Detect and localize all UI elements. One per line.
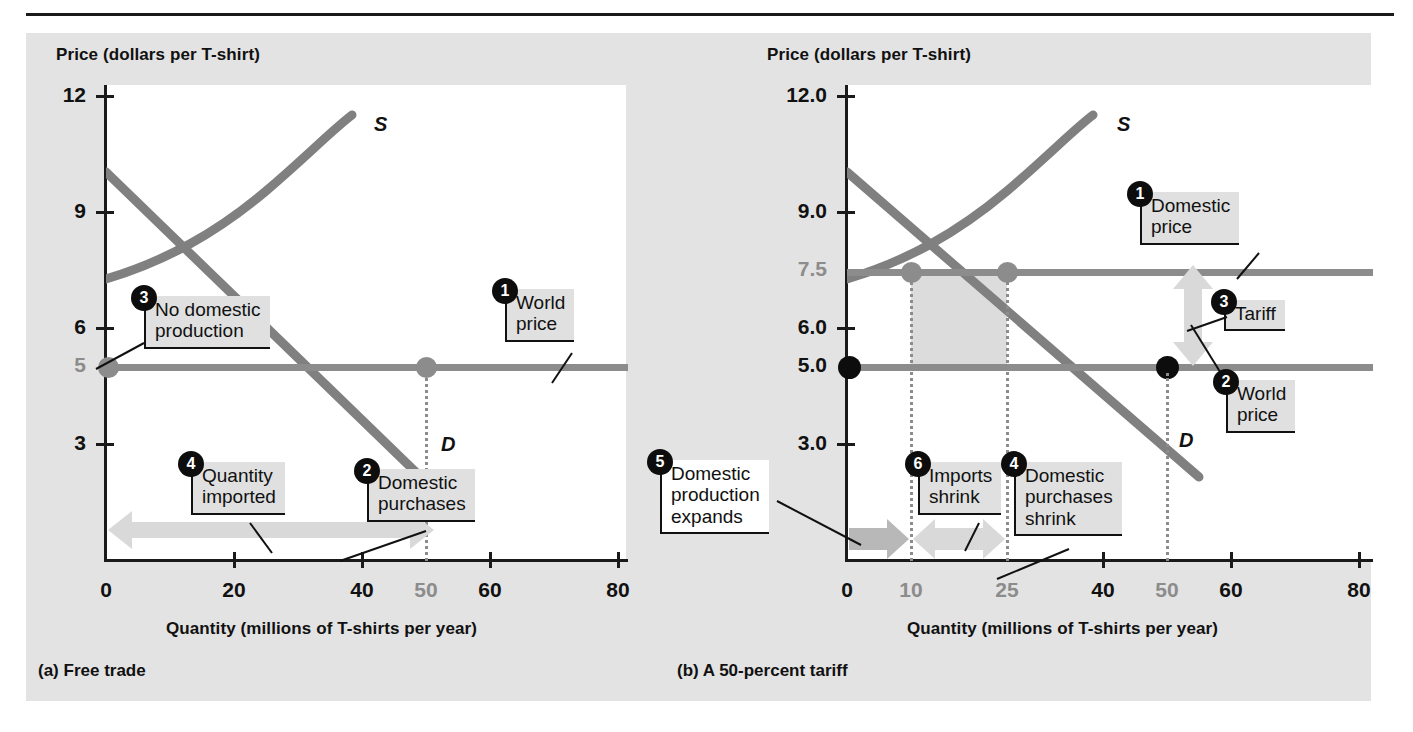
panel-a-ylabel-3: 3 — [40, 431, 86, 455]
callout-1-line-1: Domestic — [1151, 195, 1230, 216]
callout-badge-2: 2 — [354, 458, 380, 484]
callout-6-line-1: Imports — [929, 465, 992, 486]
callout-4-line-3: shrink — [1025, 508, 1113, 529]
callout-2-line-1: Domestic — [378, 472, 466, 493]
callout-4-line-2: purchases — [1025, 486, 1113, 507]
panel-b-ylabel-6: 6.0 — [755, 315, 827, 339]
callout-6-line-2: shrink — [929, 486, 992, 507]
panel-a-xlabel-80: 80 — [593, 578, 643, 602]
panel-a-x-axis-title: Quantity (millions of T-shirts per year) — [166, 619, 477, 639]
panel-b-supply-curve — [847, 115, 1093, 279]
callout-badge-4: 4 — [1001, 451, 1027, 477]
panel-b-domestic-price-line — [847, 269, 1373, 276]
panel-a-xlabel-0: 0 — [81, 578, 131, 602]
callout-5-line-2: production — [671, 484, 760, 505]
panel-b-xlabel-25: 25 — [982, 578, 1032, 602]
panel-b-ylabel-5-world-price: 5.0 — [755, 353, 827, 377]
panel-a-xlabel-20: 20 — [209, 578, 259, 602]
panel-b-ylabel-9: 9.0 — [755, 199, 827, 223]
panel-b-xlabel-50: 50 — [1142, 578, 1192, 602]
callout-badge-6: 6 — [905, 451, 931, 477]
panel-a-ylabel-5-world-price: 5 — [40, 353, 86, 377]
callout-4-line-1: Domestic — [1025, 465, 1113, 486]
panel-a-xlabel-50: 50 — [401, 578, 451, 602]
panel-b-xlabel-10: 10 — [886, 578, 936, 602]
top-rule — [26, 13, 1394, 16]
panel-b-xlabel-0: 0 — [822, 578, 872, 602]
callout-5-line-3: expands — [671, 506, 760, 527]
callout-badge-3: 3 — [1211, 289, 1237, 315]
panel-tariff: Price (dollars per T-shirt) 12.0 9.0 7.5… — [699, 33, 1371, 701]
callout-2-line-1: World — [1237, 383, 1286, 404]
callout-3-line-1: No domestic — [155, 299, 261, 320]
panel-a-demand-label: D — [441, 433, 455, 456]
callout-3-line-2: production — [155, 320, 261, 341]
panel-a-supply-label: S — [374, 113, 387, 136]
callout-1-line-2: price — [516, 313, 565, 334]
panel-a-xlabel-60: 60 — [465, 578, 515, 602]
callout-3-line-1: Tariff — [1235, 303, 1276, 324]
panel-b-caption: (b) A 50-percent tariff — [677, 661, 848, 681]
panel-b-supply-label: S — [1117, 113, 1130, 136]
panel-a-ylabel-12: 12 — [40, 83, 86, 107]
panel-b-demand-label: D — [1179, 429, 1193, 452]
callout-1-line-2: price — [1151, 216, 1230, 237]
panel-a-world-price-line — [106, 364, 628, 371]
panel-b-dotted-q50 — [1166, 373, 1169, 561]
panel-b-ylabel-12: 12.0 — [755, 83, 827, 107]
panel-b-imports-shrink-arrow — [913, 519, 1005, 559]
panel-b-ylabel-3: 3.0 — [755, 431, 827, 455]
panel-b-world-price-line — [847, 364, 1373, 371]
panel-b-domestic-production-arrow — [849, 519, 911, 559]
callout-4-line-2: imported — [202, 486, 276, 507]
panel-a-ylabel-6: 6 — [40, 315, 86, 339]
callout-badge-1: 1 — [1127, 181, 1153, 207]
callout-5-line-1: Domestic — [671, 463, 760, 484]
callout-badge-1: 1 — [492, 278, 518, 304]
panel-a-supply-curve — [106, 115, 352, 279]
figure-root: Price (dollars per T-shirt) 12 9 6 3 5 0… — [0, 0, 1413, 732]
callout-2-line-2: price — [1237, 404, 1286, 425]
panel-free-trade: Price (dollars per T-shirt) 12 9 6 3 5 0… — [26, 33, 698, 701]
panel-b-y-axis-title: Price (dollars per T-shirt) — [767, 45, 971, 65]
panel-b-xlabel-80: 80 — [1334, 578, 1384, 602]
panel-a-ylabel-9: 9 — [40, 199, 86, 223]
panel-a-xlabel-40: 40 — [337, 578, 387, 602]
callout-badge-4: 4 — [178, 451, 204, 477]
callout-badge-2: 2 — [1213, 369, 1239, 395]
panel-b-x-axis-title: Quantity (millions of T-shirts per year) — [907, 619, 1218, 639]
panel-b-xlabel-60: 60 — [1206, 578, 1256, 602]
callout-badge-3: 3 — [131, 285, 157, 311]
panel-b-dotted-q25 — [1006, 276, 1009, 561]
panel-b-ylabel-75-domestic-price: 7.5 — [755, 257, 827, 281]
panel-b-xlabel-40: 40 — [1078, 578, 1128, 602]
panel-a-y-axis-title: Price (dollars per T-shirt) — [56, 45, 260, 65]
callout-2-line-2: purchases — [378, 493, 466, 514]
panel-b-dot-origin-world-price — [838, 356, 861, 379]
callout-4-line-1: Quantity — [202, 465, 276, 486]
callout-badge-5: 5 — [647, 449, 673, 475]
panel-a-caption: (a) Free trade — [38, 661, 146, 681]
panel-a-dot-origin — [98, 357, 119, 378]
callout-1-line-1: World — [516, 292, 565, 313]
panel-b-tariff-arrow — [1169, 263, 1217, 368]
